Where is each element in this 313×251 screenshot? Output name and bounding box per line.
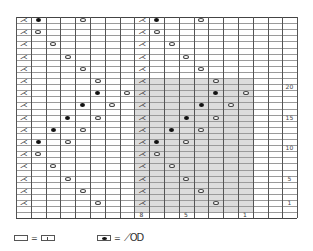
yarn-over-icon: [91, 78, 105, 84]
bobble-icon: [194, 102, 208, 108]
decrease-icon: ⋌: [17, 17, 31, 23]
grid-row-line: [16, 194, 297, 195]
grid-row-line: [16, 84, 297, 85]
legend-equals: =: [31, 234, 38, 243]
yarn-over-icon: [224, 102, 238, 108]
yarn-over-icon: [194, 66, 208, 72]
decrease-icon: ⋌: [135, 163, 149, 169]
decrease-icon: ⋌: [17, 151, 31, 157]
grid-row-line: [16, 109, 297, 110]
yarn-over-icon: [105, 102, 119, 108]
decrease-icon: ⋌: [135, 17, 149, 23]
decrease-icon: ⋌: [135, 151, 149, 157]
bobble-icon: [31, 139, 45, 145]
decrease-icon: ⋌: [17, 163, 31, 169]
decrease-icon: ⋌: [17, 29, 31, 35]
bobble-icon: [179, 115, 193, 121]
yarn-over-icon: [194, 188, 208, 194]
row-number-label: 15: [282, 115, 296, 121]
grid-col-line: [268, 17, 269, 218]
legend-knit-stitch-icon: [41, 235, 55, 241]
yarn-over-icon: [194, 127, 208, 133]
grid-col-line: [253, 17, 254, 218]
yarn-over-icon: [150, 29, 164, 35]
grid-row-line: [16, 72, 297, 73]
grid-row-line: [16, 35, 297, 36]
grid-row-line: [16, 60, 297, 61]
decrease-icon: ⋌: [135, 176, 149, 182]
yarn-over-icon: [165, 41, 179, 47]
legend-equals: =: [114, 234, 121, 243]
legend-knit: =: [14, 233, 55, 243]
decrease-icon: ⋌: [17, 127, 31, 133]
grid-row-line: [16, 182, 297, 183]
decrease-icon: ⋌: [135, 127, 149, 133]
bobble-icon: [150, 17, 164, 23]
grid-row-line: [16, 23, 297, 24]
grid-col-line: [120, 17, 121, 218]
grid-col-line: [105, 17, 106, 218]
row-number-label: 1: [282, 200, 296, 206]
grid-row-line: [16, 78, 297, 79]
column-number-label: 8: [134, 212, 148, 218]
grid-row-line: [16, 121, 297, 122]
yarn-over-icon: [61, 139, 75, 145]
grid-row-line: [16, 157, 297, 158]
yarn-over-icon: [165, 163, 179, 169]
decrease-icon: ⋌: [17, 200, 31, 206]
yarn-over-icon: [179, 54, 193, 60]
decrease-icon: ⋌: [135, 41, 149, 47]
grid-col-line: [31, 17, 32, 218]
bobble-icon: [209, 90, 223, 96]
grid-row-line: [16, 90, 297, 91]
decrease-icon: ⋌: [135, 54, 149, 60]
yarn-over-icon: [179, 139, 193, 145]
decrease-icon: ⋌: [17, 115, 31, 121]
row-number-label: 5: [282, 176, 296, 182]
yarn-over-icon: [120, 90, 134, 96]
grid-row-line: [16, 200, 297, 201]
grid-col-line: [223, 17, 224, 218]
grid-row-line: [16, 48, 297, 49]
grid-row-line: [16, 145, 297, 146]
yarn-over-icon: [239, 90, 253, 96]
grid-col-line: [238, 17, 239, 218]
decrease-icon: ⋌: [17, 102, 31, 108]
decrease-icon: ⋌: [135, 90, 149, 96]
decrease-icon: ⋌: [135, 78, 149, 84]
bobble-icon: [76, 102, 90, 108]
grid-row-line: [16, 218, 297, 219]
grid-row-line: [16, 115, 297, 116]
decrease-icon: ⋌: [17, 90, 31, 96]
grid-row-line: [16, 133, 297, 134]
bobble-icon: [61, 115, 75, 121]
yarn-over-icon: [61, 54, 75, 60]
chart-grid: ⋌⋌⋌⋌⋌⋌⋌⋌⋌⋌⋌⋌⋌⋌⋌⋌⋌⋌⋌⋌⋌⋌⋌⋌⋌⋌⋌⋌⋌⋌⋌⋌20151051…: [16, 17, 297, 218]
legend-empty-cell-icon: [14, 235, 28, 241]
decrease-icon: ⋌: [135, 102, 149, 108]
legend-bobble: = ⟋OD: [97, 233, 143, 243]
row-number-label: 10: [282, 145, 296, 151]
yarn-over-icon: [209, 78, 223, 84]
yarn-over-icon: [31, 151, 45, 157]
yarn-over-icon: [46, 163, 60, 169]
row-number-label: 20: [282, 84, 296, 90]
bobble-icon: [91, 90, 105, 96]
decrease-icon: ⋌: [135, 200, 149, 206]
yarn-over-icon: [91, 200, 105, 206]
bobble-icon: [150, 139, 164, 145]
knitting-chart: ⋌⋌⋌⋌⋌⋌⋌⋌⋌⋌⋌⋌⋌⋌⋌⋌⋌⋌⋌⋌⋌⋌⋌⋌⋌⋌⋌⋌⋌⋌⋌⋌20151051…: [16, 17, 297, 218]
decrease-icon: ⋌: [135, 188, 149, 194]
decrease-icon: ⋌: [135, 29, 149, 35]
decrease-icon: ⋌: [17, 66, 31, 72]
yarn-over-icon: [76, 66, 90, 72]
yarn-over-icon: [61, 176, 75, 182]
bobble-stitch-symbol-icon: ⟋OD: [124, 232, 144, 244]
grid-row-line: [16, 66, 297, 67]
yarn-over-icon: [76, 127, 90, 133]
decrease-icon: ⋌: [135, 115, 149, 121]
bobble-icon: [31, 17, 45, 23]
grid-col-line: [149, 17, 150, 218]
column-number-label: 5: [179, 212, 193, 218]
yarn-over-icon: [31, 29, 45, 35]
